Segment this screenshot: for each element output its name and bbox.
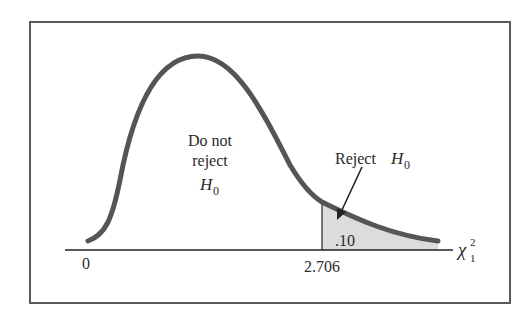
figure-frame	[30, 22, 510, 303]
acceptance-region-label: Do not reject H 0	[188, 132, 233, 198]
chi-subscript: 1	[470, 252, 476, 264]
rejection-region-label: Reject H 0	[335, 149, 410, 172]
accept-h-sub: 0	[213, 184, 219, 198]
density-curve	[88, 56, 438, 241]
area-label: .10	[335, 232, 355, 249]
tick-label-zero: 0	[82, 255, 90, 272]
reject-h: H	[390, 149, 405, 168]
arrow-line	[341, 167, 362, 212]
chi-symbol: χ	[456, 239, 467, 260]
x-axis-label: χ 2 1	[456, 236, 476, 264]
chi-square-figure: 0 2.706 χ 2 1 Do not reject H 0 Reject H…	[0, 0, 532, 321]
tick-label-critical: 2.706	[304, 258, 340, 275]
accept-line2: reject	[192, 152, 228, 170]
accept-h: H	[199, 175, 214, 194]
reject-h-sub: 0	[404, 158, 410, 172]
accept-line1: Do not	[188, 132, 233, 149]
chi-superscript: 2	[470, 236, 476, 248]
reject-text: Reject	[335, 150, 376, 168]
